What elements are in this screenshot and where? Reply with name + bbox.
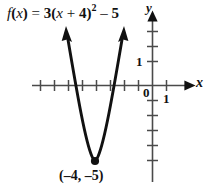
parabola-figure: f(x) = 3(x + 4)2 – 5 (–4, –5) x y 1 0 1 [0,0,222,194]
y-axis-label: y [146,1,152,14]
function-arg: x [16,5,23,21]
graph-canvas [0,0,222,194]
x-axis-label: x [196,76,203,90]
vertex-point [91,157,99,165]
vertex-coordinate-label: (–4, –5) [59,169,103,183]
parabola-curve [68,39,122,161]
origin-label: 0 [143,86,150,99]
y-axis-unit-label: 1 [136,55,143,68]
x-axis-unit-label: 1 [163,92,170,105]
function-equation-label: f(x) = 3(x + 4)2 – 5 [7,4,119,21]
